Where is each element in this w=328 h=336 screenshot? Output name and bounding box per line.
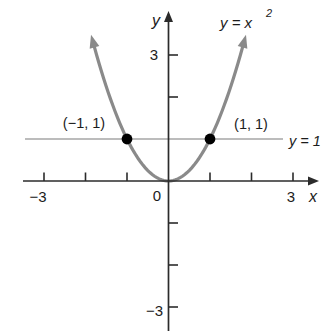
x-tick-label-0: 0 [153,187,161,204]
curve-equation-exponent: 2 [265,7,272,19]
y-tick-label-3: 3 [150,46,158,63]
intersection-point-right [205,134,216,145]
y-axis-label: y [151,12,161,29]
x-tick-label-3: 3 [287,188,295,205]
parabola-graph: y y = x 2 3 (−1, 1) (1, 1) y = 1 −3 0 3 … [0,0,328,336]
plot-layer [23,11,319,331]
y-axis-arrow [164,11,173,22]
y-tick-label-neg3: −3 [146,302,163,319]
parabola-figure: y y = x 2 3 (−1, 1) (1, 1) y = 1 −3 0 3 … [0,0,328,336]
point-label-left: (−1, 1) [63,115,105,131]
x-axis-label: x [308,188,318,205]
x-axis-arrow [308,177,319,186]
curve-equation-label: y = x [219,14,253,31]
hline-label: y = 1 [288,133,321,149]
point-label-right: (1, 1) [234,116,268,132]
curve-arrow-right [238,35,248,49]
curve-arrow-left [90,35,100,49]
x-tick-label-neg3: −3 [29,188,46,205]
intersection-point-left [122,134,133,145]
